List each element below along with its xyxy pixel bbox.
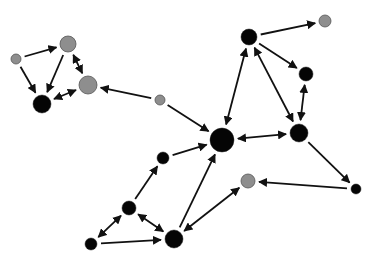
edge-M-O [184,188,239,231]
node-P [351,184,361,194]
edge-A-B [25,47,57,56]
node-J [290,124,308,142]
node-C [79,76,97,94]
edge-E-F [168,105,209,131]
edge-J-F [238,134,286,138]
edge-G-I [259,44,297,69]
edge-J-P [308,142,349,183]
edge-I-J [301,85,305,120]
edge-L-M [138,214,163,231]
edge-L-K [135,166,157,199]
edge-E-C [101,88,152,99]
edge-G-H [261,23,316,34]
node-B [60,36,76,52]
edge-G-F [226,49,246,125]
node-M [165,230,183,248]
edge-G-J [255,48,294,122]
edge-P-O [259,182,347,189]
edge-B-C [73,55,82,74]
edge-K-F [173,145,207,155]
node-L [122,201,136,215]
edge-N-M [101,240,161,244]
node-D [33,95,51,113]
node-N [85,238,97,250]
edge-B-D [47,55,63,92]
node-A [11,54,21,64]
node-F [210,128,234,152]
node-O [241,174,255,188]
edge-C-D [54,90,76,99]
node-K [157,152,169,164]
edge-A-D [21,67,36,93]
node-E [155,95,165,105]
node-I [299,67,313,81]
node-G [241,29,257,45]
network-graph [0,0,373,262]
edge-L-N [98,216,121,238]
edge-M-F [180,154,215,227]
node-H [319,15,331,27]
